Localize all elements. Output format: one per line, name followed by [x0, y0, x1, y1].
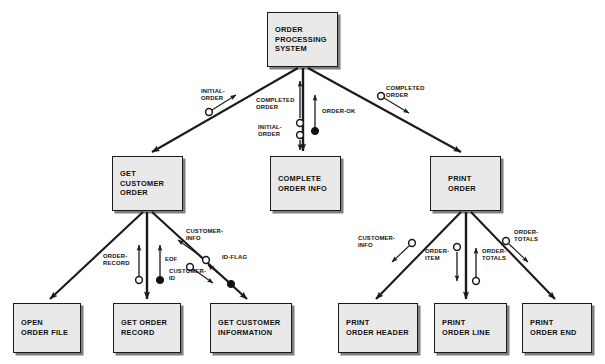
couple-label-line: INFO — [358, 242, 395, 249]
module-label-line: INFORMATION — [218, 328, 291, 338]
arrow-customer-info-up-left — [178, 240, 203, 258]
module-get-customer-order[interactable]: GET CUSTOMER ORDER — [112, 156, 183, 211]
couple-label-line: ID — [169, 275, 206, 282]
module-label-line: PRINT — [442, 318, 506, 328]
module-label-line: PRINT — [346, 318, 417, 328]
couple-label-line: CUSTOMER- — [358, 235, 395, 242]
couple-label-line: ORDER — [256, 104, 295, 111]
couple-label-line: ORDER- — [514, 229, 538, 236]
module-label-line: ORDER INFO — [278, 184, 340, 194]
couple-label-line: CUSTOMER- — [186, 228, 223, 235]
couple-label-customer-info-up-left: CUSTOMER- INFO — [186, 228, 223, 242]
module-label-line: PROCESSING — [275, 35, 337, 45]
couple-label-line: INFO — [186, 235, 223, 242]
couple-circle-customer-info-right — [409, 240, 416, 247]
couple-label-line: ORDER — [201, 95, 225, 102]
module-label-line: ORDER END — [530, 328, 591, 338]
module-get-customer-information[interactable]: GET CUSTOMER INFORMATION — [210, 303, 292, 353]
couple-label-line: ORDER- — [425, 248, 449, 255]
module-complete-order-info[interactable]: COMPLETE ORDER INFO — [270, 156, 341, 211]
module-order-processing-system[interactable]: ORDER PROCESSING SYSTEM — [267, 12, 338, 67]
module-label-line: SYSTEM — [275, 44, 337, 54]
arrow-id-flag-up — [208, 265, 228, 281]
control-flag-eof — [156, 276, 163, 283]
couple-label-line: ORDER-OK — [322, 108, 356, 115]
module-print-order-end[interactable]: PRINT ORDER END — [522, 303, 592, 353]
couple-label-line: COMPLETED — [256, 97, 295, 104]
couple-label-line: EOF — [165, 256, 178, 263]
couple-circle-customer-info-left — [203, 257, 210, 264]
couple-label-line: ORDER- — [482, 248, 506, 255]
couple-label-line: ITEM — [425, 255, 449, 262]
couple-label-eof-up: EOF — [165, 256, 178, 263]
couple-label-order-item-down: ORDER- ITEM — [425, 248, 449, 262]
module-get-order-record[interactable]: GET ORDER RECORD — [113, 303, 181, 353]
couple-label-initial-order-down: INITIAL- ORDER — [201, 88, 225, 102]
couple-label-line: CUSTOMER- — [169, 268, 206, 275]
module-label-line: ORDER FILE — [21, 328, 80, 338]
couple-label-line: INITIAL- — [258, 124, 282, 131]
couple-circle-initial-order-mid-down — [297, 132, 304, 139]
module-label-line: COMPLETE — [278, 174, 340, 184]
couple-label-id-flag-up: ID-FLAG — [222, 254, 247, 261]
module-open-order-file[interactable]: OPEN ORDER FILE — [13, 303, 81, 353]
couple-label-line: TOTALS — [514, 236, 538, 243]
couple-label-line: ORDER — [386, 92, 425, 99]
module-label-line: PRINT — [438, 174, 500, 184]
couple-circle-initial-order-down — [206, 109, 213, 116]
couple-circle-order-totals-right — [503, 238, 510, 245]
couple-label-line: ORDER- — [103, 253, 130, 260]
couple-label-line: TOTALS — [482, 255, 506, 262]
couple-label-order-ok-up: ORDER-OK — [322, 108, 356, 115]
module-print-order-line[interactable]: PRINT ORDER LINE — [434, 303, 507, 353]
couple-label-order-record-up: ORDER- RECORD — [103, 253, 130, 267]
module-label-line: GET ORDER — [121, 318, 180, 328]
module-label-line: RECORD — [121, 328, 180, 338]
couple-label-completed-order-up: COMPLETED ORDER — [256, 97, 295, 111]
module-label-line: ORDER — [275, 25, 337, 35]
couple-circle-completed-order-right — [378, 93, 385, 100]
module-label-line: ORDER HEADER — [346, 328, 417, 338]
module-label-line: GET — [120, 169, 182, 179]
control-flag-id-flag — [227, 280, 234, 287]
module-label-line: OPEN — [21, 318, 80, 328]
couple-label-order-totals-up: ORDER- TOTALS — [482, 248, 506, 262]
couple-label-line: INITIAL- — [201, 88, 225, 95]
module-print-order[interactable]: PRINT ORDER — [430, 156, 501, 211]
couple-label-line: RECORD — [103, 260, 130, 267]
couple-label-line: ID-FLAG — [222, 254, 247, 261]
module-label-line: ORDER — [438, 184, 500, 194]
couple-circle-completed-order-up — [297, 120, 304, 127]
module-label-line: PRINT — [530, 318, 591, 328]
module-label-line: ORDER — [120, 188, 182, 198]
module-label-line: GET CUSTOMER — [218, 318, 291, 328]
couple-label-line: COMPLETED — [386, 85, 425, 92]
module-label-line: CUSTOMER — [120, 179, 182, 189]
couple-label-line: ORDER — [258, 131, 282, 138]
couple-label-order-totals-right: ORDER- TOTALS — [514, 229, 538, 243]
control-flag-order-ok — [311, 127, 318, 134]
module-label-line: ORDER LINE — [442, 328, 506, 338]
couple-circle-order-record — [136, 277, 143, 284]
couple-label-initial-order-mid-down: INITIAL- ORDER — [258, 124, 282, 138]
couple-label-customer-id-down: CUSTOMER- ID — [169, 268, 206, 282]
couple-label-customer-info-right: CUSTOMER- INFO — [358, 235, 395, 249]
couple-circle-order-totals-up — [473, 278, 480, 285]
module-print-order-header[interactable]: PRINT ORDER HEADER — [338, 303, 418, 353]
couple-label-completed-order-right: COMPLETED ORDER — [386, 85, 425, 99]
couple-circle-order-item — [454, 244, 461, 251]
